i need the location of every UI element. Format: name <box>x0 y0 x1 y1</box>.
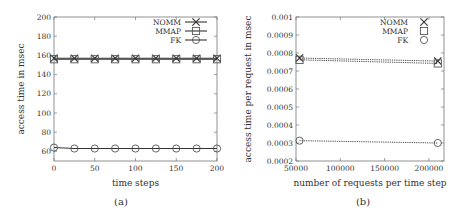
y-tick-label: 0.0005 <box>267 103 293 112</box>
legend-nomm-marker-x <box>420 18 427 25</box>
legend-item-mmap: MMAP <box>382 27 427 36</box>
y-tick-label: 0.0004 <box>267 121 293 130</box>
y-tick-label: 0.0006 <box>267 85 293 94</box>
legend-label: FK <box>397 36 408 45</box>
chart-b-access-time-per-request: 0.00020.00030.00040.00050.00060.00070.00… <box>243 13 447 207</box>
y-axis-label: access time per request in msec <box>243 15 253 162</box>
y-tick-label: 0.0007 <box>267 67 293 76</box>
x-tick-label: 100000 <box>326 164 355 173</box>
x-axis-label: number of requests per time step <box>293 178 446 188</box>
legend-label: NOMM <box>380 18 408 27</box>
legend-item-fk: FK <box>397 36 427 45</box>
y-axis-ticks: 6080100120140160180200 <box>37 13 217 156</box>
x-tick-label: 50000 <box>284 164 308 173</box>
series-mmap <box>296 56 441 67</box>
legend-item-fk: FK <box>170 36 207 45</box>
y-tick-label: 0.0003 <box>267 139 293 148</box>
legend-mmap-marker-square <box>420 27 427 34</box>
x-tick-label: 150 <box>169 164 184 173</box>
subfigure-caption: (a) <box>114 196 128 207</box>
series-fk <box>50 144 220 152</box>
x-axis-label: time steps <box>112 178 160 188</box>
legend-item-nomm: NOMM <box>153 18 207 27</box>
x-tick-label: 150000 <box>370 164 399 173</box>
x-tick-label: 100 <box>128 164 143 173</box>
x-tick-label: 200 <box>210 164 225 173</box>
legend-label: FK <box>170 36 181 45</box>
y-tick-label: 0.0009 <box>267 31 293 40</box>
x-tick-label: 0 <box>52 164 57 173</box>
y-tick-label: 120 <box>37 89 52 98</box>
legend-item-mmap: MMAP <box>155 27 207 36</box>
series-fk <box>296 137 441 147</box>
y-tick-label: 0.0008 <box>267 49 293 58</box>
y-tick-label: 80 <box>41 128 51 137</box>
legend-label: MMAP <box>155 27 181 36</box>
x-axis-ticks: 50000100000150000200000 <box>284 17 443 173</box>
subfigure-caption: (b) <box>356 196 370 207</box>
y-tick-label: 100 <box>37 109 52 118</box>
series-nomm <box>296 54 441 64</box>
y-tick-label: 160 <box>37 51 52 60</box>
legend-fk-marker-circle <box>420 36 427 43</box>
nomm-marker-x <box>434 58 441 65</box>
legend: NOMMMMAPFK <box>153 18 207 45</box>
y-tick-label: 0.001 <box>272 13 293 22</box>
chart-a-access-time-vs-time-steps: 6080100120140160180200050100150200time s… <box>16 13 224 207</box>
x-tick-label: 50 <box>90 164 100 173</box>
legend-label: MMAP <box>382 27 408 36</box>
fk-marker-circle <box>434 139 441 146</box>
legend: NOMMMMAPFK <box>380 18 428 45</box>
y-tick-label: 180 <box>37 32 52 41</box>
x-tick-label: 200000 <box>415 164 444 173</box>
y-tick-label: 60 <box>41 147 51 156</box>
y-axis-label: access time in msec <box>16 43 26 134</box>
y-axis-ticks: 0.00020.00030.00040.00050.00060.00070.00… <box>267 13 444 166</box>
legend-item-nomm: NOMM <box>380 18 428 27</box>
plot-frame <box>296 17 444 161</box>
y-tick-label: 200 <box>37 13 52 22</box>
figure: 6080100120140160180200050100150200time s… <box>0 0 461 217</box>
y-tick-label: 140 <box>37 70 52 79</box>
legend-label: NOMM <box>153 18 181 27</box>
